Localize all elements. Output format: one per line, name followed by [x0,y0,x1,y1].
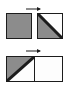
left-half-triangle-icon [7,57,34,81]
diagonal-square-triangle-icon [38,14,62,38]
top-row-arrow-head [37,7,41,11]
bottom-row-arrow-head [37,49,41,53]
diagram-stage [0,0,70,91]
gray-square [6,13,32,39]
top-row-arrow [26,6,40,11]
diagonal-square [37,13,63,39]
bottom-row-arrow [26,48,40,53]
wide-rectangle [6,56,63,82]
wide-rectangle-right-half [35,57,62,81]
wide-rectangle-left-half [7,57,34,81]
diagram-root [0,0,70,91]
